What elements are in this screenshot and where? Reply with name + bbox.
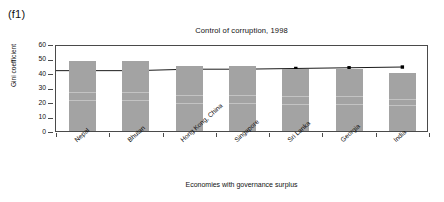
x-axis-tick-mark (56, 133, 57, 137)
x-axis-title: Economies with governance surplus (55, 181, 428, 188)
y-axis-tick-label: 0 (42, 128, 46, 135)
y-axis-tick-label: 40 (38, 70, 46, 77)
bar-texture-line (336, 96, 363, 97)
y-axis-tick-mark (48, 103, 53, 104)
y-axis-tick-label: 50 (38, 55, 46, 62)
y-axis-tick-mark (48, 74, 53, 75)
bar (336, 69, 363, 131)
bar (389, 73, 416, 131)
y-axis-tick-mark (48, 118, 53, 119)
bar-texture-line (336, 104, 363, 105)
y-axis-tick-label: 60 (38, 41, 46, 48)
bar-texture-line (282, 104, 309, 105)
bar-texture-line (69, 100, 96, 101)
bar-texture-line (176, 103, 203, 104)
y-axis-tick-mark (48, 60, 53, 61)
y-axis-title: Gini coefficient (10, 11, 17, 121)
bar-texture-line (176, 95, 203, 96)
x-axis-tick-mark (269, 133, 270, 137)
bar-texture-line (122, 100, 149, 101)
x-axis-tick-mark (163, 133, 164, 137)
bar-texture-line (229, 95, 256, 96)
bar-texture-line (229, 103, 256, 104)
y-axis-tick-mark (48, 132, 53, 133)
bar-texture-line (389, 99, 416, 100)
y-axis-tick-label: 20 (38, 99, 46, 106)
bar (122, 61, 149, 131)
bar-texture-line (282, 96, 309, 97)
data-point-marker (401, 65, 404, 68)
y-axis-tick-label: 30 (38, 84, 46, 91)
bar (69, 61, 96, 131)
x-axis-tick-mark (322, 133, 323, 137)
plot-inner (56, 46, 427, 131)
y-axis-tick-mark (48, 89, 53, 90)
x-axis-tick-mark (216, 133, 217, 137)
x-axis-tick-mark (376, 133, 377, 137)
y-axis-tick-mark (48, 45, 53, 46)
x-axis-tick-mark (429, 133, 430, 137)
bar-texture-line (122, 92, 149, 93)
bar-texture-line (69, 92, 96, 93)
x-axis-tick-mark (109, 133, 110, 137)
chart-title: Control of corruption, 1998 (55, 26, 428, 35)
bar-texture-line (389, 105, 416, 106)
y-axis-tick-label: 10 (38, 113, 46, 120)
plot-area (55, 45, 428, 132)
figure-panel: (f1) Control of corruption, 1998 Gini co… (0, 0, 444, 202)
